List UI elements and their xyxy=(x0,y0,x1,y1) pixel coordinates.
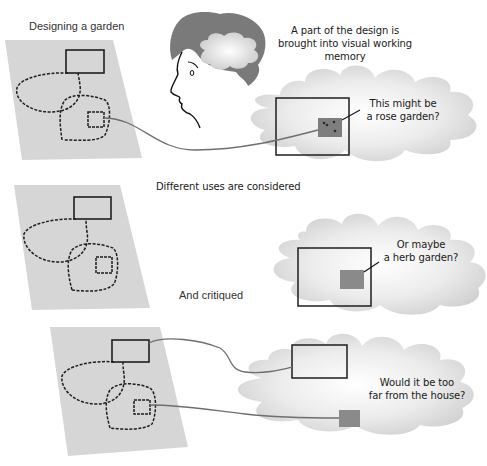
annotation-line: A part of the design is xyxy=(275,24,415,37)
thought-line: Would it be too xyxy=(362,376,472,389)
caption-designing-a-garden: Designing a garden xyxy=(29,20,124,32)
thought-rose-garden: This might be a rose garden? xyxy=(362,97,444,123)
eyebrow xyxy=(188,62,198,68)
paper-sheet-1 xyxy=(5,40,142,160)
plot-box-3 xyxy=(339,410,360,427)
annotation-line: memory xyxy=(275,50,415,63)
thought-line: This might be xyxy=(362,97,444,110)
eye xyxy=(190,71,194,76)
person-head-profile-icon xyxy=(170,12,265,128)
thought-far-from-house: Would it be too far from the house? xyxy=(362,376,472,402)
annotation-working-memory: A part of the design is brought into vis… xyxy=(275,24,415,63)
memory-cloud-2 xyxy=(274,214,486,315)
thought-line: a rose garden? xyxy=(362,110,444,123)
annotation-line: brought into visual working xyxy=(275,37,415,50)
rose-garden-box xyxy=(318,118,342,137)
face-outline xyxy=(171,52,200,128)
thought-line: far from the house? xyxy=(362,389,472,402)
thought-herb-garden: Or maybe a herb garden? xyxy=(380,238,462,264)
thought-line: Or maybe xyxy=(380,238,462,251)
caption-and-critiqued: And critiqued xyxy=(179,289,243,301)
caption-different-uses: Different uses are considered xyxy=(156,180,301,193)
herb-garden-box xyxy=(340,270,364,289)
thought-line: a herb garden? xyxy=(380,251,462,264)
paper-sheet-3 xyxy=(50,327,188,456)
diagram-canvas: Designing a garden A part of the design … xyxy=(0,0,487,466)
